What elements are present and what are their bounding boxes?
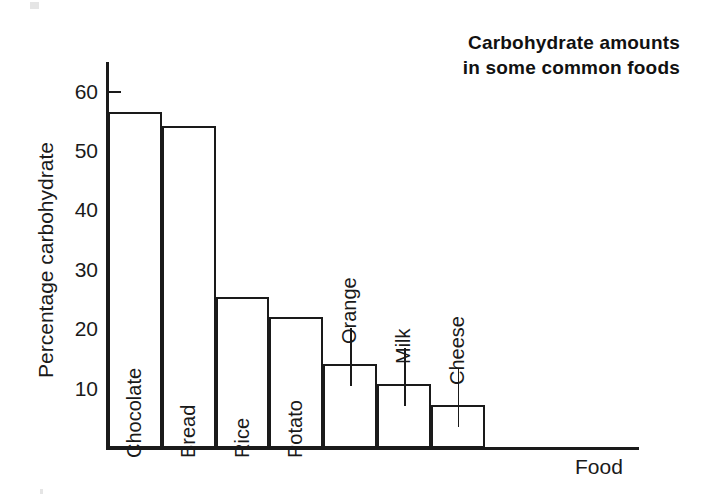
chart-title-line-2: in some common foods: [463, 55, 680, 80]
scan-artifact-top: [30, 2, 39, 9]
chart-title-line-1: Carbohydrate amounts: [463, 30, 680, 55]
leader-line-cheese: [458, 369, 460, 427]
y-axis-tick-label: 10: [48, 378, 98, 399]
y-axis-tick-label: 20: [48, 318, 98, 339]
bar-label-rice: Rice: [232, 418, 252, 458]
bar-label-chocolate: Chocolate: [124, 368, 144, 458]
bar-label-bread: Bread: [178, 405, 198, 458]
bar-chart: Carbohydrate amounts in some common food…: [0, 0, 702, 502]
y-axis-tick-label: 60: [48, 81, 98, 102]
scan-artifact-bottom: [40, 489, 43, 494]
y-axis-tick-label: 30: [48, 259, 98, 280]
bar-label-potato: Potato: [285, 400, 305, 458]
chart-title: Carbohydrate amounts in some common food…: [463, 30, 680, 80]
bar-bread: [162, 126, 216, 448]
x-axis-title: Food: [575, 455, 623, 479]
leader-line-milk: [404, 348, 406, 406]
leader-line-orange: [350, 328, 352, 386]
y-axis-tick-label: 50: [48, 140, 98, 161]
y-axis-tick: [108, 91, 121, 93]
y-axis-tick-label: 40: [48, 199, 98, 220]
